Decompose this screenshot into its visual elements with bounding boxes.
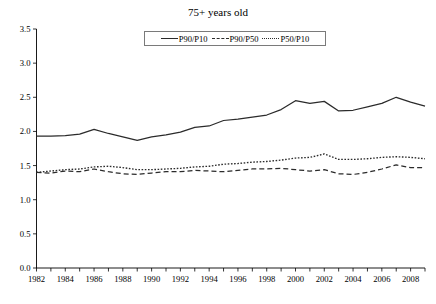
x-axis-tick-label: 2002 — [316, 274, 333, 284]
y-axis-tick-label: 1.0 — [20, 195, 31, 205]
x-axis-tick-label: 1982 — [28, 274, 45, 284]
x-axis-tick-label: 2006 — [373, 274, 391, 284]
x-axis-tick-label: 1986 — [85, 274, 103, 284]
data-series-group — [37, 97, 426, 174]
x-axis-tick-label: 2004 — [344, 274, 362, 284]
y-axis-tick-label: 1.5 — [20, 161, 31, 171]
y-axis-tick-label: 3.0 — [20, 58, 31, 68]
x-axis-tick-label: 1984 — [57, 274, 75, 284]
x-axis-tick-label: 2000 — [287, 274, 304, 284]
y-axis-tick-label: 0.5 — [20, 229, 31, 239]
y-axis: 0.00.51.01.52.02.53.03.5 — [20, 24, 37, 273]
x-axis-tick-label: 1996 — [229, 274, 247, 284]
x-axis-tick-label: 1992 — [172, 274, 189, 284]
x-axis-tick-label: 1994 — [201, 274, 219, 284]
x-axis: 1982198419861988199019921994199619982000… — [28, 268, 425, 284]
y-axis-tick-label: 0.0 — [20, 263, 31, 273]
plot-area: 0.00.51.01.52.02.53.03.5 198219841986198… — [0, 0, 436, 304]
y-axis-tick-label: 2.5 — [20, 92, 31, 102]
x-axis-tick-label: 1998 — [258, 274, 275, 284]
x-axis-tick-label: 1988 — [114, 274, 131, 284]
y-axis-tick-label: 3.5 — [20, 24, 31, 34]
series-line-p90-p10 — [37, 97, 426, 140]
x-axis-tick-label: 1990 — [143, 274, 160, 284]
y-axis-tick-label: 2.0 — [20, 126, 31, 136]
chart-container: 75+ years old P90/P10 P90/P50 P50/P10 0.… — [0, 0, 436, 304]
x-axis-tick-label: 2008 — [402, 274, 419, 284]
